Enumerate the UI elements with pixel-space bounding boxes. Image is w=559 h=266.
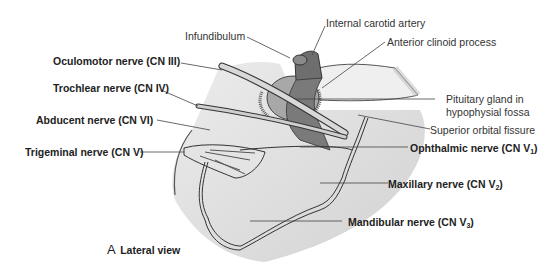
label-trigeminal-nerve: Trigeminal nerve (CN V): [25, 146, 143, 158]
label-oculomotor-nerve: Oculomotor nerve (CN III): [53, 55, 180, 67]
label-pituitary-gland-line2: hypophysial fossa: [446, 106, 529, 118]
label-pituitary-gland-line1: Pituitary gland in: [446, 93, 524, 105]
maxillary-text: Maxillary nerve (CN V: [388, 178, 495, 190]
label-abducent-nerve: Abducent nerve (CN VI): [36, 114, 153, 126]
label-anterior-clinoid-process: Anterior clinoid process: [387, 36, 496, 48]
label-internal-carotid-artery: Internal carotid artery: [326, 17, 425, 29]
label-ophthalmic-nerve: Ophthalmic nerve (CN V1): [410, 142, 538, 158]
panel-letter: A: [107, 242, 116, 257]
label-infundibulum: Infundibulum: [185, 30, 245, 42]
maxillary-paren: ): [499, 178, 503, 190]
label-superior-orbital-fissure: Superior orbital fissure: [430, 124, 535, 136]
anterior-clinoid-process: [310, 64, 418, 101]
mandibular-text: Mandibular nerve (CN V: [348, 216, 466, 228]
figure-caption: A Lateral view: [107, 240, 180, 258]
label-maxillary-nerve: Maxillary nerve (CN V2): [388, 178, 503, 194]
mandibular-paren: ): [470, 216, 474, 228]
ophthalmic-paren: ): [534, 142, 538, 154]
caption-text: Lateral view: [120, 244, 180, 256]
ophthalmic-text: Ophthalmic nerve (CN V: [410, 142, 530, 154]
label-trochlear-nerve: Trochlear nerve (CN IV): [53, 82, 169, 94]
anatomy-figure: Infundibulum Internal carotid artery Ant…: [0, 0, 559, 266]
label-mandibular-nerve: Mandibular nerve (CN V3): [348, 216, 474, 232]
